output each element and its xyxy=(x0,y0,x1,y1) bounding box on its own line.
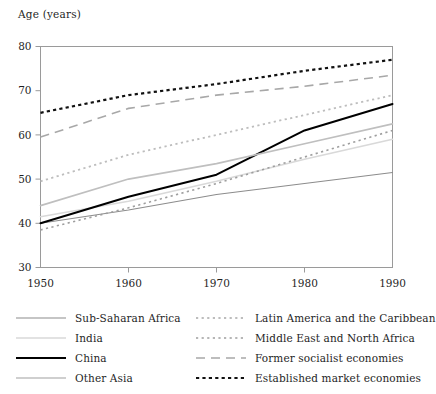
series-line-4 xyxy=(41,95,393,181)
plot-area: 30405060708019501960197019801990 xyxy=(0,0,416,300)
legend-item[interactable]: China xyxy=(16,348,196,368)
legend-item[interactable]: India xyxy=(16,328,196,348)
x-axis-tick-label: 1990 xyxy=(379,277,406,289)
x-axis-tick-label: 1980 xyxy=(291,277,318,289)
legend-item-label: China xyxy=(75,352,107,364)
y-axis-tick-label: 60 xyxy=(18,129,31,141)
legend-item[interactable]: Former socialist economies xyxy=(196,348,416,368)
x-axis-tick-label: 1970 xyxy=(203,277,230,289)
legend-line-swatch xyxy=(16,352,66,364)
legend-item[interactable]: Other Asia xyxy=(16,368,196,388)
legend-item[interactable]: Latin America and the Caribbean xyxy=(196,308,416,328)
legend-item-label: Sub-Saharan Africa xyxy=(75,312,181,324)
legend-line-swatch xyxy=(196,312,246,324)
y-axis-tick-label: 70 xyxy=(18,84,31,96)
legend-line-swatch xyxy=(196,352,246,364)
legend-line-swatch xyxy=(196,332,246,344)
chart-legend: Sub-Saharan AfricaIndiaChinaOther Asia L… xyxy=(0,308,416,394)
legend-line-swatch xyxy=(16,332,66,344)
x-axis-tick-label: 1950 xyxy=(27,277,54,289)
x-axis-tick-label: 1960 xyxy=(115,277,142,289)
legend-item[interactable]: Sub-Saharan Africa xyxy=(16,308,196,328)
y-axis-tick-label: 50 xyxy=(18,173,31,185)
legend-line-swatch xyxy=(16,312,66,324)
legend-item-label: Latin America and the Caribbean xyxy=(255,312,436,324)
line-chart-svg: 30405060708019501960197019801990 xyxy=(0,0,416,300)
y-axis-tick-label: 30 xyxy=(18,261,31,273)
series-line-3 xyxy=(41,124,393,206)
legend-item[interactable]: Middle East and North Africa xyxy=(196,328,416,348)
legend-item-label: Middle East and North Africa xyxy=(255,332,415,344)
legend-item-label: Established market economies xyxy=(255,372,421,384)
legend-line-swatch xyxy=(196,372,246,384)
legend-column-left: Sub-Saharan AfricaIndiaChinaOther Asia xyxy=(16,308,196,394)
legend-item-label: India xyxy=(75,332,103,344)
series-line-0 xyxy=(41,172,393,223)
legend-line-swatch xyxy=(16,372,66,384)
series-line-1 xyxy=(41,139,393,216)
plot-frame xyxy=(41,47,393,268)
legend-item-label: Other Asia xyxy=(75,372,133,384)
y-axis-tick-label: 80 xyxy=(18,40,31,52)
y-axis-tick-label: 40 xyxy=(18,217,31,229)
series-line-7 xyxy=(41,60,393,113)
legend-column-right: Latin America and the CaribbeanMiddle Ea… xyxy=(196,308,416,394)
legend-item-label: Former socialist economies xyxy=(255,352,403,364)
legend-item[interactable]: Established market economies xyxy=(196,368,416,388)
